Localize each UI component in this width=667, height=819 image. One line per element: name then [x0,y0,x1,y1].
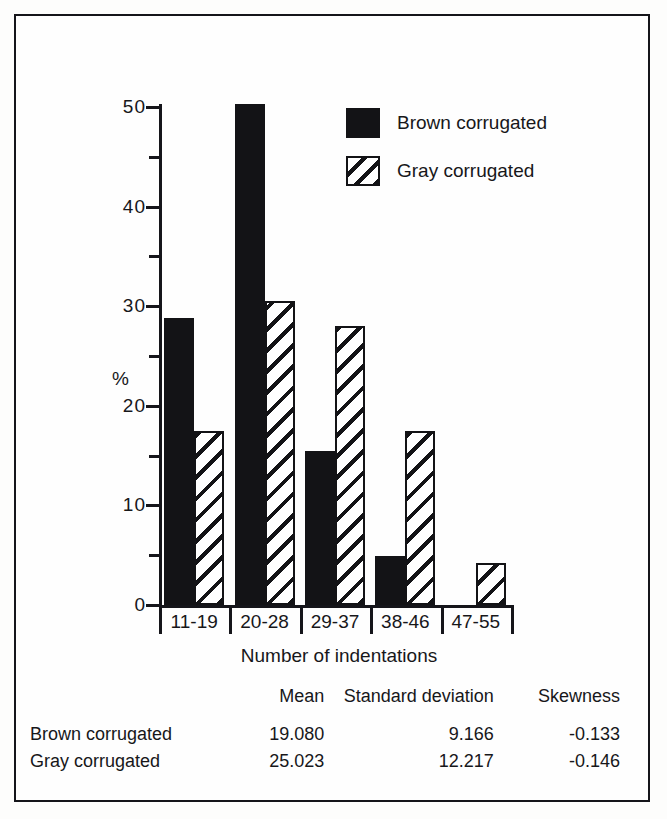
y-axis-tick-major [146,504,159,507]
y-axis-tick-minor [149,255,159,258]
y-axis-tick-major [146,604,159,607]
legend-swatch-hatch-icon [346,156,380,186]
y-axis-tick-minor [149,554,159,557]
row-label: Gray corrugated [30,748,218,775]
y-axis-tick-label: 0 [106,595,146,614]
bar-gray-47-55 [476,563,506,605]
stats-table-body: Brown corrugated 19.080 9.166 -0.133 Gra… [30,721,638,775]
cell-mean: 25.023 [218,748,340,775]
bar-brown-38-46 [375,556,405,605]
y-axis-tick-label: 40 [106,197,146,216]
cell-mean: 19.080 [218,721,340,748]
stats-table: Mean Standard deviation Skewness Brown c… [30,684,638,775]
table-header-row: Mean Standard deviation Skewness [30,684,638,721]
bar-gray-11-19 [194,431,224,605]
legend-item-brown-corrugated: Brown corrugated [346,108,547,138]
bar-gray-38-46 [405,431,435,605]
histogram-chart: 01020304050 % Number of indentations 11-… [16,16,652,676]
y-axis-title: % [112,368,129,390]
y-axis-tick-major [146,405,159,408]
y-axis-tick-label: 20 [106,396,146,415]
y-axis-tick-minor [149,156,159,159]
cell-skewness: -0.146 [516,748,638,775]
y-axis-tick-label: 50 [106,97,146,116]
x-axis-tick-label: 29-37 [300,611,370,633]
cell-standard-deviation: 9.166 [340,721,516,748]
figure-frame: 01020304050 % Number of indentations 11-… [14,14,650,802]
x-axis-labels: Number of indentations 11-1920-2829-3738… [159,605,519,675]
legend-label: Gray corrugated [397,160,534,182]
y-axis-tick-major [146,106,159,109]
y-axis-tick-minor [149,355,159,358]
table-row: Gray corrugated 25.023 12.217 -0.146 [30,748,638,775]
bar-brown-29-37 [305,451,335,605]
row-label: Brown corrugated [30,721,218,748]
legend-item-gray-corrugated: Gray corrugated [346,156,547,186]
cell-skewness: -0.133 [516,721,638,748]
x-axis-tick-label: 47-55 [441,611,511,633]
y-axis-labels: 01020304050 [86,16,146,676]
statistics-table: Mean Standard deviation Skewness Brown c… [16,684,652,775]
header-standard-deviation: Standard deviation [340,684,516,721]
legend-label: Brown corrugated [397,112,547,134]
x-axis-tick-label: 38-46 [370,611,440,633]
y-axis-tick-minor [149,455,159,458]
table-row: Brown corrugated 19.080 9.166 -0.133 [30,721,638,748]
y-axis-tick-label: 10 [106,495,146,514]
chart-legend: Brown corrugated Gray corrugated [346,108,547,204]
x-axis-tick-label: 20-28 [229,611,299,633]
bar-brown-20-28 [235,104,265,605]
header-mean: Mean [218,684,340,721]
legend-swatch-solid-icon [346,108,380,138]
header-blank [30,684,218,721]
cell-standard-deviation: 12.217 [340,748,516,775]
x-axis-title: Number of indentations [159,645,519,667]
y-axis-tick-major [146,305,159,308]
y-axis-tick-major [146,206,159,209]
y-axis-tick-label: 30 [106,296,146,315]
bar-brown-11-19 [164,318,194,605]
bar-gray-29-37 [335,326,365,605]
x-axis-tick-label: 11-19 [159,611,229,633]
x-axis-separator [511,607,514,634]
figure-page: 01020304050 % Number of indentations 11-… [0,0,667,819]
header-skewness: Skewness [516,684,638,721]
bar-gray-20-28 [265,301,295,605]
